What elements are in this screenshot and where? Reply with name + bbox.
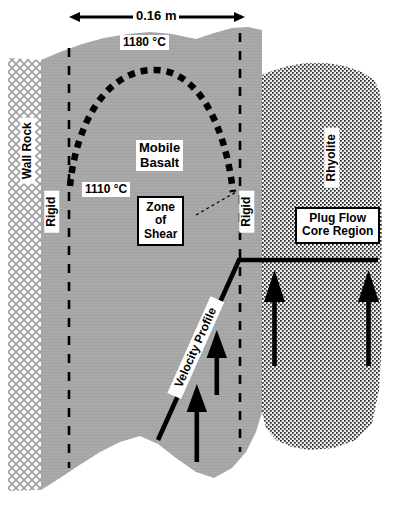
wall-rock-label: Wall Rock — [20, 118, 35, 184]
diagram-canvas — [0, 0, 398, 505]
plug-flow-core-region-label: Plug Flow Core Region — [295, 207, 380, 244]
dimension-label: 0.16 m — [133, 8, 179, 23]
rigid-label-left: Rigid — [44, 191, 59, 233]
mobile-basalt-label: Mobile Basalt — [136, 140, 183, 171]
rhyolite-label: Rhyolite — [324, 128, 339, 188]
rhyolite-region — [262, 63, 382, 450]
rigid-label-right: Rigid — [239, 191, 254, 233]
diagram-figure: 0.16 m 1180 °C 1110 °C Mobile Basalt Zon… — [0, 0, 398, 505]
zone-of-shear-label: Zone of Shear — [137, 196, 184, 246]
temperature-label-1110: 1110 °C — [82, 182, 130, 197]
temperature-label-1180: 1180 °C — [120, 35, 169, 50]
mobile-basalt-region — [41, 27, 262, 490]
